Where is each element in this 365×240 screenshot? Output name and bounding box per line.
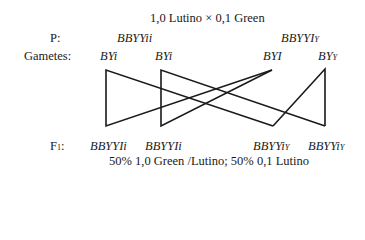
gamete-1-lines: [106, 70, 273, 126]
f1-label-colon: :: [61, 139, 64, 153]
genotype-subscript: Y: [340, 142, 345, 152]
genotype-subscript: Y: [285, 142, 290, 152]
f1-label: F1:: [50, 139, 64, 155]
genotype-text: BBYYi: [308, 139, 340, 153]
genotype-text: BBYYIi: [90, 139, 127, 153]
genotype-text: BBYYIi: [145, 139, 182, 153]
result-summary: 50% 1,0 Green /Lutino; 50% 0,1 Lutino: [109, 154, 309, 168]
genotype-text: BBYYi: [253, 139, 285, 153]
offspring-1: BBYYIi: [90, 139, 127, 153]
offspring-2: BBYYIi: [145, 139, 182, 153]
gamete-2-lines: [161, 70, 325, 126]
f1-label-text: F: [50, 139, 57, 153]
offspring-3: BBYYiY: [253, 139, 289, 154]
offspring-4: BBYYiY: [308, 139, 344, 154]
